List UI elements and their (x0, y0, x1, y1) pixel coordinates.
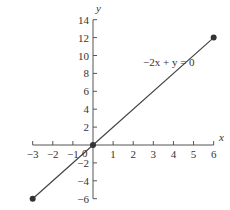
x-tick-label: 2 (130, 148, 136, 160)
axis-ticks (33, 20, 214, 199)
data-point (30, 196, 36, 202)
x-tick-label: 6 (211, 148, 217, 160)
x-tick-label: −2 (47, 148, 59, 160)
y-axis-label: y (95, 2, 101, 14)
line-chart: −3−2−1123456−6−4−22468101214 x y 0 −2x +… (0, 0, 230, 210)
origin-label: 0 (82, 147, 88, 159)
x-tick-label: 5 (191, 148, 197, 160)
y-tick-label: 14 (78, 14, 90, 26)
y-tick-label: 8 (84, 67, 90, 79)
y-tick-label: 6 (84, 85, 90, 97)
axis-tick-labels: −3−2−1123456−6−4−22468101214 (27, 14, 217, 205)
x-axis-label: x (218, 131, 224, 143)
equation-label: −2x + y = 0 (143, 56, 195, 68)
y-tick-label: −6 (77, 193, 89, 205)
y-tick-label: 10 (78, 50, 90, 62)
axes (33, 20, 214, 199)
data-point (211, 35, 217, 41)
y-tick-label: 4 (84, 103, 90, 115)
x-tick-label: 1 (110, 148, 116, 160)
y-tick-label: −4 (77, 175, 89, 187)
x-tick-label: 4 (171, 148, 177, 160)
y-tick-label: 12 (78, 32, 89, 44)
x-tick-label: −3 (27, 148, 39, 160)
data-point (90, 142, 96, 148)
x-tick-label: 3 (151, 148, 157, 160)
y-tick-label: 2 (84, 121, 90, 133)
